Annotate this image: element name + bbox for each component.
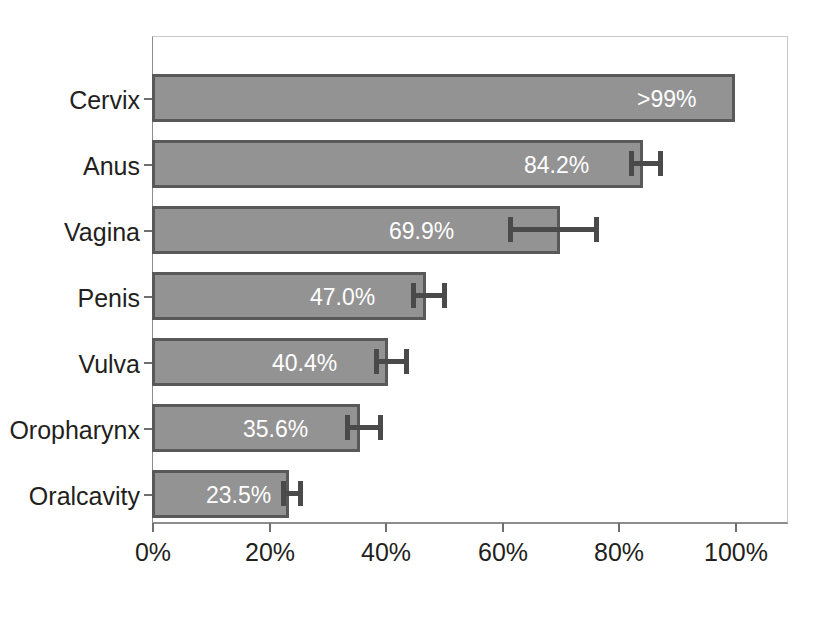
error-bar-cap-high-oropharynx xyxy=(378,415,383,440)
category-label-vagina: Vagina xyxy=(0,220,140,245)
x-axis-line xyxy=(152,523,788,524)
x-tick-40 xyxy=(385,523,387,532)
bar-value-penis: 47.0% xyxy=(310,286,375,309)
y-axis-category-labels: Cervix Anus Vagina Penis Vulva Oropharyn… xyxy=(0,36,140,523)
x-tick-60 xyxy=(502,523,504,532)
x-tick-label-0: 0% xyxy=(135,540,171,565)
error-bar-cap-low-penis xyxy=(411,283,416,308)
error-bar-cap-high-penis xyxy=(442,283,447,308)
error-bar-cap-high-anus xyxy=(658,151,663,176)
x-tick-label-80: 80% xyxy=(594,540,644,565)
category-label-anus: Anus xyxy=(0,154,140,179)
y-tick-anus xyxy=(144,164,152,166)
y-tick-cervix xyxy=(144,98,152,100)
error-bar-cap-high-oralcavity xyxy=(298,481,303,506)
error-bar-line-penis xyxy=(412,293,446,298)
x-tick-0 xyxy=(152,523,154,532)
category-label-penis: Penis xyxy=(0,286,140,311)
error-bar-line-vagina xyxy=(509,227,598,232)
x-tick-80 xyxy=(618,523,620,532)
y-tick-oropharynx xyxy=(144,428,152,430)
bar-value-oralcavity: 23.5% xyxy=(206,484,271,507)
x-tick-label-100: 100% xyxy=(704,540,768,565)
category-label-oropharynx: Oropharynx xyxy=(0,418,140,443)
bar-vulva[interactable] xyxy=(152,338,388,386)
error-bar-cap-low-oralcavity xyxy=(281,481,286,506)
bar-value-cervix: >99% xyxy=(637,88,696,111)
bar-vagina[interactable] xyxy=(152,206,560,254)
error-bar-cap-high-vulva xyxy=(404,349,409,374)
bar-penis[interactable] xyxy=(152,272,426,320)
y-tick-oralcavity xyxy=(144,494,152,496)
x-tick-label-20: 20% xyxy=(245,540,295,565)
y-tick-vagina xyxy=(144,230,152,232)
y-tick-penis xyxy=(144,296,152,298)
category-label-oralcavity: Oralcavity xyxy=(0,484,140,509)
y-tick-vulva xyxy=(144,362,152,364)
bar-chart: Cervix Anus Vagina Penis Vulva Oropharyn… xyxy=(0,0,831,619)
error-bar-cap-high-vagina xyxy=(594,217,599,242)
x-tick-100 xyxy=(735,523,737,532)
category-label-cervix: Cervix xyxy=(0,88,140,113)
bar-value-vulva: 40.4% xyxy=(272,352,337,375)
error-bar-cap-low-anus xyxy=(629,151,634,176)
category-label-vulva: Vulva xyxy=(0,352,140,377)
bar-value-vagina: 69.9% xyxy=(389,220,454,243)
x-tick-label-40: 40% xyxy=(361,540,411,565)
bar-value-oropharynx: 35.6% xyxy=(243,418,308,441)
x-tick-label-60: 60% xyxy=(478,540,528,565)
error-bar-line-oropharynx xyxy=(346,425,382,430)
bar-value-anus: 84.2% xyxy=(524,154,589,177)
error-bar-cap-low-vulva xyxy=(374,349,379,374)
x-tick-20 xyxy=(269,523,271,532)
error-bar-cap-low-oropharynx xyxy=(345,415,350,440)
error-bar-cap-low-vagina xyxy=(508,217,513,242)
